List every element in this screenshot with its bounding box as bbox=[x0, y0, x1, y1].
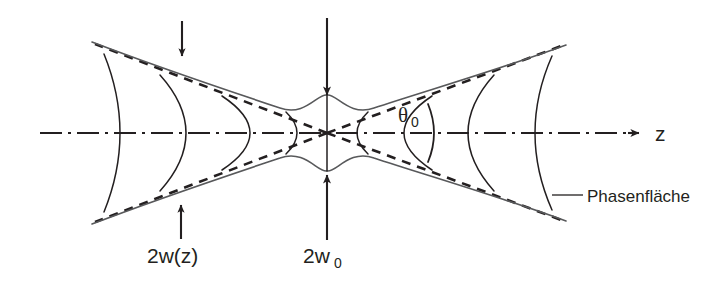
beam-envelope-upper bbox=[92, 42, 566, 110]
beam-waist-label-subscript: 0 bbox=[334, 255, 342, 271]
z-axis-label: z bbox=[655, 122, 666, 145]
bottom-dimension-arrows: 2w(z) 2w 0 bbox=[147, 175, 342, 271]
optical-axis-group: z bbox=[40, 122, 666, 145]
divergence-angle-label: θ bbox=[398, 103, 408, 127]
phase-front-label: Phasenfläche bbox=[587, 187, 690, 206]
top-dimension-arrows bbox=[182, 18, 327, 95]
beam-envelope-lower bbox=[92, 156, 566, 224]
gaussian-beam-diagram: z bbox=[0, 0, 727, 297]
phase-front-callout: Phasenfläche bbox=[552, 187, 690, 206]
beam-diameter-label: 2w(z) bbox=[147, 244, 198, 267]
beam-diagram-canvas: z bbox=[0, 0, 727, 297]
divergence-angle-subscript: 0 bbox=[411, 114, 419, 130]
beam-waist-label: 2w bbox=[303, 244, 331, 267]
